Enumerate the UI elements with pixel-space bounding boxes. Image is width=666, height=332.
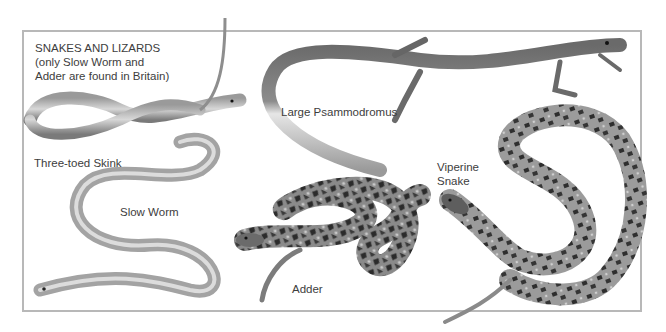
plate-title-line-1: SNAKES AND LIZARDS (35, 41, 169, 55)
label-three-toed-skink: Three-toed Skink (34, 156, 122, 170)
plate-title-line-2: (only Slow Worm and (35, 55, 169, 69)
viperine-snake-drawing (438, 115, 636, 322)
label-slow-worm: Slow Worm (120, 205, 179, 219)
adder-drawing (236, 188, 420, 300)
label-viperine-line-2: Snake (437, 174, 479, 188)
plate-title-line-3: Adder are found in Britain) (35, 69, 169, 83)
label-viperine-line-1: Viperine (437, 160, 479, 174)
label-large-psammodromus: Large Psammodromus (281, 105, 397, 119)
label-viperine-snake: Viperine Snake (437, 160, 479, 188)
plate-title: SNAKES AND LIZARDS (only Slow Worm and A… (35, 41, 169, 83)
label-adder: Adder (292, 282, 323, 296)
